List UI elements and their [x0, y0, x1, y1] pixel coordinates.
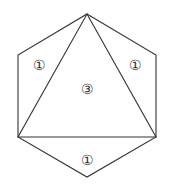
label-left: ① [33, 57, 46, 73]
label-bottom: ① [81, 152, 94, 168]
hexagon-diagram: ① ① ③ ① [0, 0, 169, 190]
center-triangle [18, 14, 156, 137]
label-right: ① [129, 57, 142, 73]
label-center: ③ [81, 81, 94, 97]
